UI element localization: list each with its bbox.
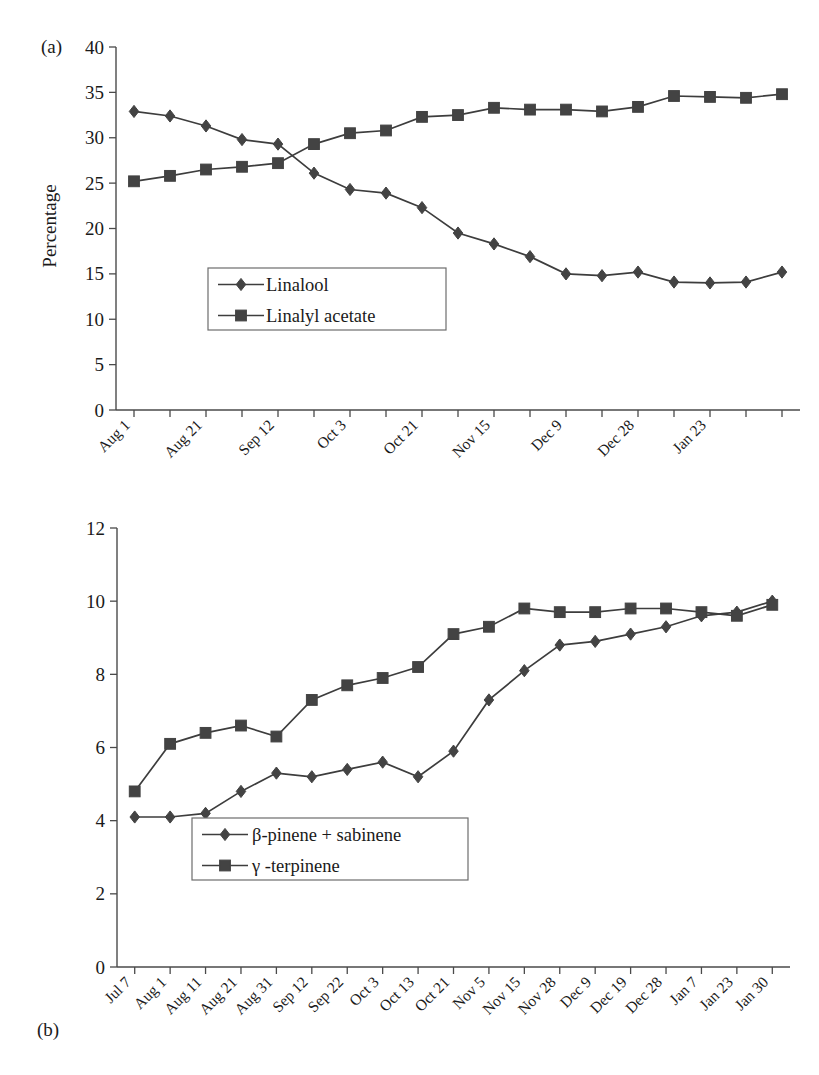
data-point-marker — [165, 738, 176, 749]
data-point-marker — [345, 128, 356, 139]
x-tick-label: Jul 7 — [101, 973, 134, 1006]
x-tick-label-group: Oct 21 — [411, 973, 453, 1015]
data-point-marker — [165, 110, 175, 122]
data-point-marker — [200, 727, 211, 738]
x-tick-label: Jan 23 — [696, 973, 737, 1014]
y-tick-label: 0 — [95, 400, 105, 421]
data-point-marker — [555, 639, 565, 651]
data-point-marker — [165, 170, 176, 181]
data-point-marker — [413, 771, 423, 783]
panel-a-plot: 0510152025303540Aug 1Aug 21Sep 12Oct 3Oc… — [0, 0, 819, 515]
data-point-marker — [165, 811, 175, 823]
data-point-marker — [129, 786, 140, 797]
x-tick-label-group: Dec 28 — [594, 416, 638, 460]
data-point-marker — [590, 635, 600, 647]
x-tick-label-group: Dec 19 — [586, 973, 630, 1017]
y-tick-label: 0 — [96, 957, 106, 978]
data-point-marker — [201, 120, 211, 132]
data-point-marker — [561, 268, 571, 280]
data-point-marker — [525, 104, 536, 115]
data-point-marker — [345, 183, 355, 195]
x-tick-label: Sep 12 — [235, 416, 277, 458]
data-point-marker — [661, 621, 671, 633]
data-point-marker — [309, 167, 319, 179]
data-point-marker — [705, 92, 716, 103]
data-point-marker — [661, 603, 672, 614]
data-point-marker — [236, 720, 247, 731]
x-tick-label: Nov 15 — [479, 973, 524, 1018]
y-tick-label: 15 — [85, 263, 104, 284]
x-tick-label-group: Jan 7 — [666, 973, 701, 1008]
x-tick-label-group: Sep 12 — [235, 416, 277, 458]
legend-marker — [220, 860, 231, 871]
figure-container: (a) Percentage 0510152025303540Aug 1Aug … — [0, 0, 819, 1075]
x-tick-label-group: Dec 28 — [622, 973, 666, 1017]
data-point-marker — [306, 695, 317, 706]
y-tick-label: 10 — [85, 309, 104, 330]
data-point-marker — [236, 785, 246, 797]
data-point-marker — [597, 270, 607, 282]
data-point-marker — [129, 105, 139, 117]
data-point-marker — [626, 628, 636, 640]
data-point-marker — [554, 607, 565, 618]
x-tick-label-group: Jul 7 — [101, 973, 134, 1006]
data-point-marker — [767, 599, 778, 610]
data-point-marker — [381, 187, 391, 199]
data-point-marker — [417, 111, 428, 122]
data-point-marker — [381, 125, 392, 136]
series-line-primary — [134, 111, 782, 283]
x-tick-label-group: Nov 15 — [449, 416, 494, 461]
x-tick-label-group: Oct 21 — [380, 416, 422, 458]
y-tick-label: 35 — [85, 82, 104, 103]
data-point-marker — [413, 662, 424, 673]
legend-label: Linalyl acetate — [266, 306, 375, 326]
data-point-marker — [453, 110, 464, 121]
data-point-marker — [520, 665, 530, 677]
x-tick-label: Jan 23 — [669, 416, 710, 457]
chart-panel-b: (b) Percentage 024681012Jul 7Aug 1Aug 11… — [0, 500, 819, 1075]
data-point-marker — [696, 607, 707, 618]
data-point-marker — [731, 610, 742, 621]
x-tick-label: Nov 15 — [449, 416, 494, 461]
data-point-marker — [377, 673, 388, 684]
x-tick-label-group: Nov 15 — [479, 973, 524, 1018]
data-point-marker — [777, 266, 787, 278]
data-point-marker — [307, 771, 317, 783]
x-tick-label-group: Aug 21 — [161, 416, 206, 461]
y-tick-label: 4 — [96, 810, 106, 831]
x-tick-label-group: Aug 21 — [195, 973, 240, 1018]
x-tick-label: Aug 21 — [161, 416, 206, 461]
data-point-marker — [342, 680, 353, 691]
x-tick-label: Dec 9 — [527, 416, 565, 454]
x-tick-label-group: Jan 23 — [669, 416, 710, 457]
y-tick-label: 40 — [85, 37, 104, 58]
data-point-marker — [625, 603, 636, 614]
x-tick-label-group: Oct 13 — [376, 973, 418, 1015]
data-point-marker — [271, 731, 282, 742]
x-tick-label: Dec 28 — [594, 416, 638, 460]
x-tick-label-group: Aug 31 — [231, 973, 276, 1018]
data-point-marker — [519, 603, 530, 614]
x-tick-label-group: Dec 9 — [527, 416, 565, 454]
data-point-marker — [484, 621, 495, 632]
data-point-marker — [669, 276, 679, 288]
data-point-marker — [633, 101, 644, 112]
x-tick-label: Nov 28 — [514, 973, 559, 1018]
x-tick-label: Sep 12 — [269, 973, 311, 1015]
data-point-marker — [489, 102, 500, 113]
x-tick-label: Dec 19 — [586, 973, 630, 1017]
data-point-marker — [777, 89, 788, 100]
data-point-marker — [561, 104, 572, 115]
legend-label: γ -terpinene — [251, 856, 340, 876]
x-tick-label-group: Jan 30 — [731, 973, 772, 1014]
panel-b-plot: 024681012Jul 7Aug 1Aug 11Aug 21Aug 31Sep… — [0, 500, 819, 1075]
data-point-marker — [201, 164, 212, 175]
data-point-marker — [741, 276, 751, 288]
x-tick-label-group: Sep 12 — [269, 973, 311, 1015]
legend-marker — [236, 310, 247, 321]
data-point-marker — [669, 91, 680, 102]
data-point-marker — [417, 202, 427, 214]
x-tick-label-group: Aug 11 — [160, 973, 204, 1017]
y-tick-label: 30 — [85, 127, 104, 148]
x-tick-label-group: Oct 3 — [313, 416, 349, 452]
